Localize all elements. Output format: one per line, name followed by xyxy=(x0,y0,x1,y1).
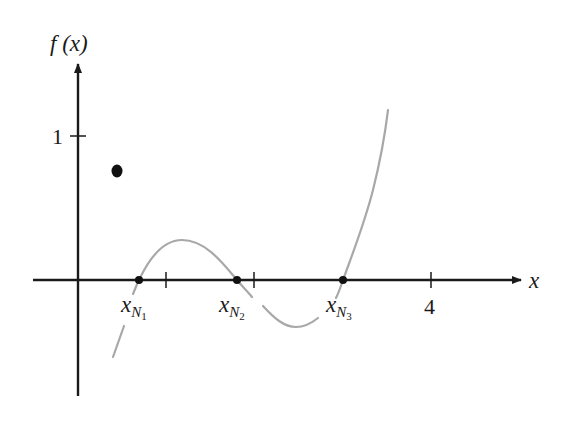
root-label-1-base: x xyxy=(120,292,132,317)
root-label-2: xN2 xyxy=(218,292,245,322)
curve-segment-trough xyxy=(263,306,318,327)
root-label-1-subsub: 1 xyxy=(141,310,147,322)
ticks xyxy=(70,136,431,288)
root-label-3-base: x xyxy=(325,292,337,317)
axes xyxy=(33,64,521,396)
root-label-3-subsub: 3 xyxy=(346,310,352,322)
root-point-1 xyxy=(135,276,143,284)
root-point-3 xyxy=(339,276,347,284)
y-axis-label: f (x) xyxy=(50,31,88,56)
root-label-2-base: x xyxy=(218,292,230,317)
root-label-2-subsub: 2 xyxy=(239,310,245,322)
isolated-point xyxy=(112,165,123,178)
root-finding-figure: f (x) x 1 4 xN1 xN2 xN3 xyxy=(0,0,567,423)
curve-segment-lower-left xyxy=(113,326,124,357)
x-axis-label: x xyxy=(528,268,540,293)
curve-segment-hump xyxy=(133,240,252,297)
x-tick-label: 4 xyxy=(424,294,435,319)
root-label-1: xN1 xyxy=(120,292,147,322)
root-point-2 xyxy=(233,276,241,284)
root-label-3: xN3 xyxy=(325,292,352,322)
curve-segment-rise xyxy=(336,110,388,298)
y-tick-label: 1 xyxy=(52,124,63,149)
